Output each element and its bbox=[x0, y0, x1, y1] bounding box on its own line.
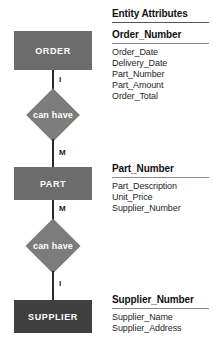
cardinality-relationship-2-to-supplier: I bbox=[59, 280, 61, 288]
attributes-column: Entity Attributes Order_Number Order_Dat… bbox=[112, 0, 213, 356]
entity-supplier[interactable]: SUPPLIER bbox=[14, 300, 92, 333]
attribute-group-supplier: Supplier_Number Supplier_Name Supplier_A… bbox=[112, 294, 209, 334]
attributes-column-title: Entity Attributes bbox=[112, 8, 209, 23]
attribute-item: Supplier_Name bbox=[112, 312, 209, 323]
relationship-can-have-1[interactable]: can have bbox=[24, 90, 82, 140]
attribute-list-part: Part_Description Unit_Price Supplier_Num… bbox=[112, 178, 209, 214]
attribute-group-part-key: Part_Number bbox=[112, 163, 209, 178]
entity-supplier-label: SUPPLIER bbox=[28, 312, 78, 322]
cardinality-relationship-1-to-part: M bbox=[59, 149, 66, 157]
connector-relationship-2-to-supplier bbox=[52, 271, 54, 301]
entity-part-label: PART bbox=[40, 179, 66, 189]
attribute-list-order: Order_Date Delivery_Date Part_Number Par… bbox=[112, 44, 209, 102]
attribute-item: Unit_Price bbox=[112, 192, 209, 203]
entity-part[interactable]: PART bbox=[14, 167, 92, 200]
attribute-item: Part_Description bbox=[112, 181, 209, 192]
er-diagram-canvas: ORDER I can have M PART M can have I SUP… bbox=[0, 0, 213, 356]
attribute-item: Delivery_Date bbox=[112, 58, 209, 69]
relationship-can-have-2[interactable]: can have bbox=[24, 220, 82, 272]
entity-order[interactable]: ORDER bbox=[14, 31, 92, 70]
attribute-item: Part_Amount bbox=[112, 80, 209, 91]
attribute-group-order-key: Order_Number bbox=[112, 29, 209, 44]
attribute-group-part: Part_Number Part_Description Unit_Price … bbox=[112, 163, 209, 214]
cardinality-order-to-relationship-1: I bbox=[59, 76, 61, 84]
attribute-group-supplier-key: Supplier_Number bbox=[112, 294, 209, 309]
attributes-column-title-group: Entity Attributes bbox=[112, 8, 209, 23]
attribute-item: Supplier_Address bbox=[112, 323, 209, 334]
connector-relationship-1-to-part bbox=[52, 139, 54, 168]
attribute-item: Order_Total bbox=[112, 91, 209, 102]
attribute-item: Supplier_Number bbox=[112, 203, 209, 214]
relationship-can-have-2-label: can have bbox=[33, 241, 73, 251]
attribute-group-order: Order_Number Order_Date Delivery_Date Pa… bbox=[112, 29, 209, 102]
attribute-item: Part_Number bbox=[112, 69, 209, 80]
cardinality-part-to-relationship-2: M bbox=[59, 205, 66, 213]
entity-order-label: ORDER bbox=[35, 46, 71, 56]
relationship-can-have-1-label: can have bbox=[33, 110, 73, 120]
attribute-list-supplier: Supplier_Name Supplier_Address bbox=[112, 309, 209, 334]
attribute-item: Order_Date bbox=[112, 47, 209, 58]
